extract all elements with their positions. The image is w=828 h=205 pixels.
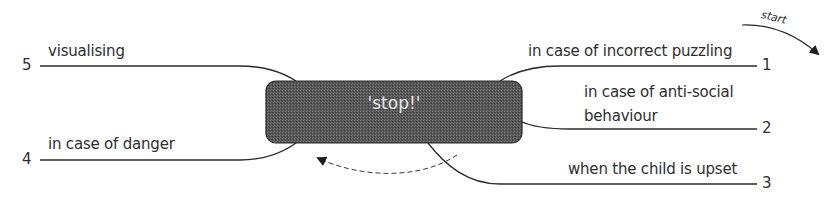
branch-label-2-line1: in case of anti-social	[584, 83, 733, 101]
return-arrow	[318, 155, 457, 173]
branch-number-2: 2	[762, 119, 772, 137]
branch-line-1	[500, 66, 757, 81]
branch-label-5: visualising	[48, 42, 125, 60]
branch-number-4: 4	[22, 150, 32, 168]
branch-label-4: in case of danger	[48, 135, 175, 153]
branch-number-3: 3	[762, 174, 772, 192]
branch-number-1: 1	[762, 56, 772, 74]
start-arrow	[742, 25, 818, 54]
branch-label-1: in case of incorrect puzzling	[528, 42, 732, 60]
branch-line-5	[40, 66, 296, 81]
branch-label-3: when the child is upset	[568, 160, 737, 178]
center-label: 'stop!'	[266, 81, 522, 143]
branch-label-2-line2: behaviour	[584, 107, 658, 125]
branch-number-5: 5	[22, 56, 32, 74]
